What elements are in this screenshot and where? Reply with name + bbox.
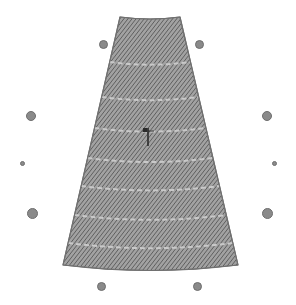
handle-left-mid-small[interactable] [20,161,25,166]
panel-body[interactable] [63,17,238,271]
handle-top-left[interactable] [99,40,108,49]
pattern-panel-canvas[interactable] [0,0,296,305]
handle-right-mid-small[interactable] [272,161,277,166]
handle-left-lower[interactable] [27,208,38,219]
panel-fill [63,17,238,271]
handle-top-right[interactable] [195,40,204,49]
handle-bottom-left[interactable] [97,282,106,291]
panel-vector-layer [0,0,296,305]
handle-left-upper[interactable] [26,111,36,121]
handle-bottom-right[interactable] [193,282,202,291]
handle-right-lower[interactable] [262,208,273,219]
handle-right-upper[interactable] [262,111,272,121]
